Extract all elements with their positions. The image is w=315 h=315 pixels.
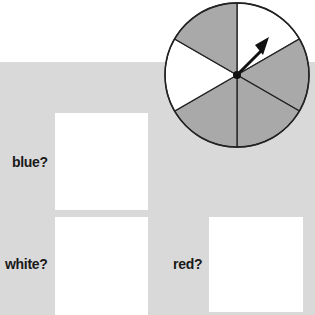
answer-box-red[interactable] xyxy=(209,217,303,312)
spinner-pivot xyxy=(233,71,241,79)
label-blue: blue? xyxy=(12,154,48,170)
answer-box-blue[interactable] xyxy=(55,113,148,210)
label-white: white? xyxy=(5,256,48,272)
label-red: red? xyxy=(173,256,202,272)
spinner xyxy=(162,0,312,150)
answer-box-white[interactable] xyxy=(55,217,148,315)
